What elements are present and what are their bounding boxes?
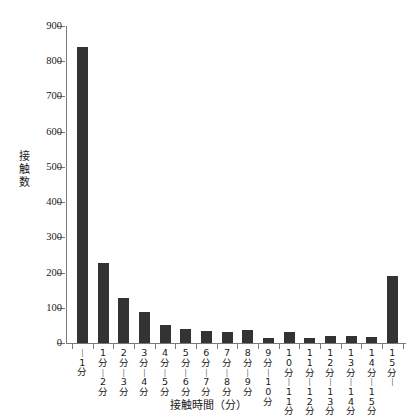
x-axis-tick-mark: [299, 344, 300, 349]
x-axis-tick-label: 3分|4分: [138, 348, 151, 397]
x-axis-tick-mark: [403, 344, 404, 349]
x-axis-label-char: 分: [76, 367, 89, 377]
bar[interactable]: [180, 329, 191, 343]
y-axis-tick-label: 700: [46, 89, 62, 102]
x-axis-tick-label: 5分|6分: [179, 348, 192, 397]
x-axis-tick-mark: [175, 344, 176, 349]
x-axis-tick-label: 2分|3分: [117, 348, 130, 397]
x-axis-tick-mark: [382, 344, 383, 349]
y-axis-title-char: 数: [16, 176, 32, 189]
x-axis-tick-mark: [320, 344, 321, 349]
x-axis-tick-mark: [113, 344, 114, 349]
y-axis-tick-label: 100: [46, 301, 62, 314]
x-axis-tick-mark: [258, 344, 259, 349]
y-axis-tick-label: 300: [46, 230, 62, 243]
x-axis-tick-label: 15分|: [386, 348, 399, 387]
plot-area: 0100200300400500600700800900: [66, 26, 406, 343]
y-axis-title-char: 触: [16, 163, 32, 176]
x-axis-tick-mark: [72, 344, 73, 349]
range-dash: |: [386, 377, 399, 387]
y-axis-tick-label: 900: [46, 19, 62, 32]
bar[interactable]: [304, 338, 315, 343]
bar[interactable]: [222, 332, 233, 343]
x-axis-tick-mark: [237, 344, 238, 349]
x-axis-tick-label: |1分: [76, 348, 89, 377]
x-axis-tick-mark: [134, 344, 135, 349]
bar[interactable]: [325, 336, 336, 343]
y-axis-tick-label: 400: [46, 195, 62, 208]
y-axis-title: 接触数: [16, 150, 32, 189]
bar[interactable]: [139, 312, 150, 343]
y-axis-tick-label: 0: [57, 336, 62, 349]
y-axis-tick-label: 200: [46, 266, 62, 279]
bar[interactable]: [263, 338, 274, 343]
y-axis-tick-label: 500: [46, 160, 62, 173]
y-axis-tick-label: 600: [46, 125, 62, 138]
x-axis-tick-mark: [155, 344, 156, 349]
bar[interactable]: [160, 325, 171, 343]
y-axis-line: [66, 26, 67, 344]
bar[interactable]: [366, 337, 377, 343]
x-axis-tick-mark: [93, 344, 94, 349]
bar[interactable]: [346, 336, 357, 343]
y-axis-title-char: 接: [16, 150, 32, 163]
bar[interactable]: [98, 263, 109, 343]
x-axis-tick-label: 7分|8分: [221, 348, 234, 397]
x-axis-tick-mark: [217, 344, 218, 349]
y-axis-tick-label: 800: [46, 54, 62, 67]
x-axis-tick-mark: [196, 344, 197, 349]
bar[interactable]: [387, 276, 398, 343]
x-axis-tick-mark: [341, 344, 342, 349]
x-axis-tick-mark: [279, 344, 280, 349]
x-axis-tick-label: 6分|7分: [200, 348, 213, 397]
bar[interactable]: [242, 330, 253, 343]
x-axis-line: [66, 343, 406, 344]
x-axis-tick-label: 8分|9分: [241, 348, 254, 397]
bar[interactable]: [77, 47, 88, 343]
bar[interactable]: [201, 331, 212, 343]
x-axis-title: 接触時間（分）: [0, 396, 417, 412]
bar-chart-figure: 接触数 0100200300400500600700800900 |1分1分|2…: [0, 0, 417, 419]
x-axis-tick-label: 1分|2分: [97, 348, 110, 397]
x-axis-tick-mark: [361, 344, 362, 349]
bar[interactable]: [118, 298, 129, 343]
bar[interactable]: [284, 332, 295, 343]
x-axis-tick-label: 4分|5分: [159, 348, 172, 397]
